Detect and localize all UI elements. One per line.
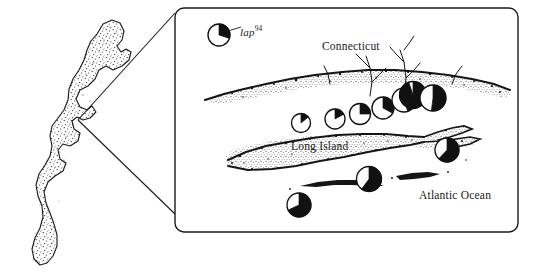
label-connecticut: Connecticut (322, 40, 380, 52)
pie-site-1 (292, 114, 311, 133)
legend-pie-symbol (208, 24, 230, 46)
pie-site-4 (372, 97, 394, 119)
pie-site-3 (350, 104, 371, 125)
pie-site-10 (287, 193, 311, 217)
figure-root (0, 0, 544, 278)
pie-site-7 (420, 85, 446, 111)
label-atlantic-ocean: Atlantic Ocean (419, 189, 491, 201)
legend-label-text: lap (240, 26, 255, 38)
pie-site-8 (435, 138, 459, 162)
pie-site-9 (357, 167, 382, 192)
legend-label-superscript: 94 (255, 24, 263, 33)
legend-label: lap94 (240, 24, 263, 38)
label-long-island: Long Island (291, 140, 348, 152)
pie-site-2 (325, 109, 345, 129)
